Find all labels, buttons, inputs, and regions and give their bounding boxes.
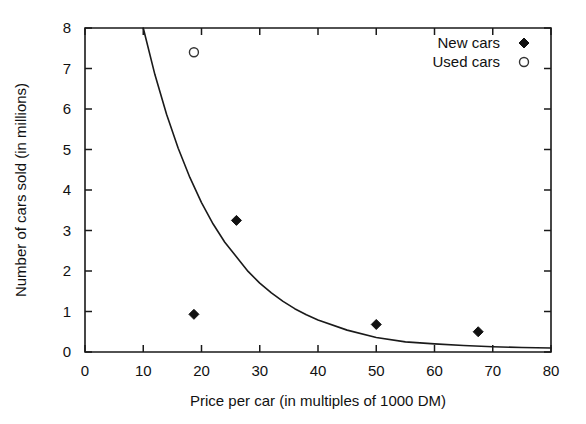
data-point-new-cars	[231, 215, 241, 225]
scatter-chart: 01020304050607080 012345678 New carsUsed…	[0, 0, 586, 424]
exponential-fit-curve	[143, 28, 551, 348]
legend-label-new-cars: New cars	[437, 34, 500, 51]
data-point-new-cars	[189, 309, 199, 319]
y-tick-label: 8	[63, 19, 71, 36]
data-point-new-cars	[371, 319, 381, 329]
x-tick-label: 10	[135, 362, 152, 379]
y-tick-label: 7	[63, 60, 71, 77]
y-tick-label: 0	[63, 343, 71, 360]
x-tick-label: 80	[543, 362, 560, 379]
y-tick-label: 4	[63, 181, 71, 198]
x-tick-label: 20	[193, 362, 210, 379]
data-series	[189, 48, 483, 337]
y-axis-tick-labels: 012345678	[63, 19, 71, 360]
chart-page: 01020304050607080 012345678 New carsUsed…	[0, 0, 586, 424]
x-axis-title: Price per car (in multiples of 1000 DM)	[190, 392, 446, 409]
x-tick-label: 0	[81, 362, 89, 379]
x-tick-label: 40	[310, 362, 327, 379]
fit-curve	[143, 28, 551, 348]
y-tick-label: 6	[63, 100, 71, 117]
data-point-used-cars	[189, 48, 198, 57]
y-axis-title: Number of cars sold (in millions)	[12, 83, 29, 297]
chart-legend: New carsUsed cars	[432, 34, 529, 70]
x-tick-label: 60	[426, 362, 443, 379]
x-tick-label: 30	[251, 362, 268, 379]
x-axis-tick-labels: 01020304050607080	[81, 362, 560, 379]
data-point-new-cars	[473, 327, 483, 337]
y-tick-label: 2	[63, 262, 71, 279]
x-tick-label: 70	[484, 362, 501, 379]
legend-label-used-cars: Used cars	[432, 53, 500, 70]
y-tick-label: 1	[63, 303, 71, 320]
y-tick-label: 5	[63, 141, 71, 158]
x-tick-label: 50	[368, 362, 385, 379]
legend-marker-filled-diamond-icon	[519, 38, 529, 48]
legend-marker-open-circle-icon	[520, 58, 529, 67]
y-tick-label: 3	[63, 222, 71, 239]
